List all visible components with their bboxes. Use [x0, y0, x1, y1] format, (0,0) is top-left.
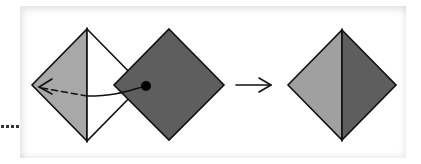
dark-flap	[114, 29, 224, 140]
continuation-dots	[1, 125, 19, 128]
result-diamond	[288, 30, 396, 140]
result-diamond-light-half	[288, 30, 342, 140]
left-diamond-light-half	[32, 29, 87, 141]
pivot-dot	[141, 81, 151, 91]
step-arrow-icon	[236, 78, 271, 92]
result-diamond-dark-half	[342, 30, 396, 140]
origami-fold-diagram	[0, 0, 421, 164]
